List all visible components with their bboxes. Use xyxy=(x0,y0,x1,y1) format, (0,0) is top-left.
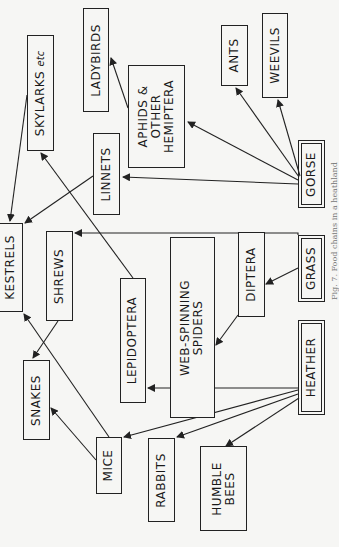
node-diptera: DIPTERA xyxy=(238,232,265,317)
node-rabbits: RABBITS xyxy=(148,438,175,522)
node-label-line1: APHIDS & xyxy=(137,80,150,153)
edge-gorse-weevils xyxy=(278,100,300,176)
edge-shrews-snakes xyxy=(33,321,58,358)
node-grass: GRASS xyxy=(301,238,322,299)
edge-skylarks-kestrels xyxy=(10,95,27,221)
node-humble-bees: HUMBLE BEES xyxy=(200,446,247,531)
node-weevils: WEEVILS xyxy=(262,13,288,98)
node-kestrels: KESTRELS xyxy=(0,223,23,312)
node-label: ANTS xyxy=(228,38,241,72)
node-web-spinning-spiders: WEB-SPINNING SPIDERS xyxy=(170,237,215,418)
node-label-line2: SPIDERS xyxy=(193,279,206,375)
node-label: GORSE xyxy=(305,152,318,197)
node-label-suffix: etc xyxy=(35,50,46,66)
node-heather: HEATHER xyxy=(301,323,322,412)
edge-linnets-kestrels xyxy=(25,176,93,223)
node-ants: ANTS xyxy=(221,25,248,86)
node-ladybirds: LADYBIRDS xyxy=(83,8,109,112)
node-label-line2: OTHER xyxy=(150,80,163,153)
node-label: GRASS xyxy=(305,247,318,290)
node-label: DIPTERA xyxy=(245,247,258,302)
edge-diptera-spiders xyxy=(216,315,238,345)
edge-gorse-linnets xyxy=(123,177,298,184)
node-label: RABBITS xyxy=(155,453,168,508)
node-label: SHREWS xyxy=(53,248,66,303)
edge-grass-diptera xyxy=(266,268,298,284)
edge-aphids-ladybirds xyxy=(111,58,128,108)
node-label: SKYLARKS xyxy=(33,70,47,135)
node-label-line3: HEMIPTERA xyxy=(163,80,176,153)
node-label: LADYBIRDS xyxy=(90,24,103,97)
node-label: MICE xyxy=(103,450,116,482)
node-label: SNAKES xyxy=(30,375,43,426)
node-label: LEPIDOPTERA xyxy=(127,297,140,384)
node-snakes: SNAKES xyxy=(23,360,50,440)
node-gorse: GORSE xyxy=(301,143,322,205)
node-skylarks: SKYLARKS etc xyxy=(27,35,54,151)
node-linnets: LINNETS xyxy=(93,133,120,215)
edge-heather-bees xyxy=(226,398,299,446)
node-label: KESTRELS xyxy=(4,235,17,300)
node-label: WEEVILS xyxy=(269,27,282,84)
figure-caption: Fig. 7. Food chains in a heathland xyxy=(330,162,339,300)
node-lepidoptera: LEPIDOPTERA xyxy=(120,278,146,403)
node-label: HEATHER xyxy=(305,338,318,398)
edge-gorse-aphids xyxy=(188,122,298,180)
node-mice: MICE xyxy=(96,437,122,494)
node-label-line2: BEES xyxy=(224,462,237,516)
node-label-line1: HUMBLE xyxy=(211,462,224,516)
node-label: LINNETS xyxy=(100,147,113,201)
node-shrews: SHREWS xyxy=(46,231,73,321)
node-aphids-hemiptera: APHIDS & OTHER HEMIPTERA xyxy=(128,65,185,168)
edge-mice-snakes xyxy=(51,408,96,460)
